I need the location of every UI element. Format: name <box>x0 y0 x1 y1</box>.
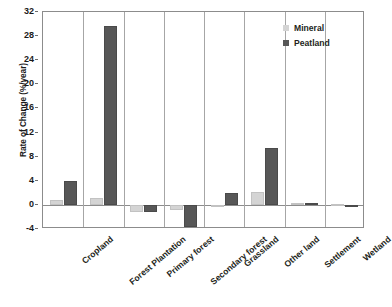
x-axis-labels: CroplandForest PlantationPrimary forestS… <box>42 228 364 307</box>
bar-mineral-cropland <box>50 200 63 205</box>
y-tick-mark <box>35 107 38 108</box>
bar-group <box>83 12 123 227</box>
y-tick-mark <box>35 156 38 157</box>
y-tick-mark <box>35 83 38 84</box>
y-tick-label: 8 <box>29 151 34 161</box>
legend-swatch-icon <box>283 25 289 31</box>
y-tick-mark <box>35 132 38 133</box>
bar-peatland-other-land <box>265 148 278 205</box>
bar-peatland-settlement <box>305 203 318 205</box>
y-axis-ticks: 322824201612840-4 <box>14 4 38 236</box>
bar-peatland-grassland <box>225 193 238 205</box>
legend-label: Mineral <box>294 23 324 33</box>
legend-item-mineral: Mineral <box>283 23 330 33</box>
y-tick-label: 16 <box>24 102 34 112</box>
bar-group <box>124 12 164 227</box>
x-tick-label-wetland: Wetland <box>361 234 392 263</box>
legend-item-peatland: Peatland <box>283 38 330 48</box>
x-tick-label-cropland: Cropland <box>80 234 115 266</box>
y-tick-label: 24 <box>24 54 34 64</box>
legend-label: Peatland <box>294 38 330 48</box>
bar-mineral-primary-forest <box>130 205 143 212</box>
y-tick-label: 4 <box>29 175 34 185</box>
y-tick-label: 32 <box>24 6 34 16</box>
x-tick-label-secondary-forest: Secondary forest <box>208 234 268 287</box>
bar-group <box>244 12 284 227</box>
bar-peatland-wetland <box>345 205 358 207</box>
bar-group <box>325 12 365 227</box>
y-tick-mark <box>35 228 38 229</box>
bar-peatland-cropland <box>64 181 77 205</box>
bar-group <box>204 12 244 227</box>
y-tick-label: 20 <box>24 78 34 88</box>
bar-peatland-secondary-forest <box>184 205 197 227</box>
bar-peatland-primary-forest <box>144 205 157 212</box>
y-tick-mark <box>35 204 38 205</box>
bar-mineral-other-land <box>251 192 264 205</box>
legend-swatch-icon <box>283 40 289 46</box>
y-tick-mark <box>35 59 38 60</box>
y-tick-label: 28 <box>24 30 34 40</box>
y-tick-mark <box>35 180 38 181</box>
bar-group <box>164 12 204 227</box>
x-tick-label-settlement: Settlement <box>323 234 363 270</box>
y-tick-label: 0 <box>29 199 34 209</box>
bar-mineral-settlement <box>291 203 304 205</box>
bar-mineral-wetland <box>331 204 344 206</box>
bar-peatland-forest-plantation <box>104 26 117 205</box>
y-tick-mark <box>35 11 38 12</box>
chart-legend: MineralPeatland <box>283 23 330 53</box>
bar-group <box>43 12 83 227</box>
bar-mineral-forest-plantation <box>90 198 103 205</box>
y-tick-label: 12 <box>24 127 34 137</box>
y-tick-mark <box>35 35 38 36</box>
bar-mineral-secondary-forest <box>170 205 183 210</box>
y-tick-label: -4 <box>26 223 34 233</box>
x-tick-label-other-land: Other land <box>282 234 321 269</box>
bar-mineral-grassland <box>211 205 224 207</box>
